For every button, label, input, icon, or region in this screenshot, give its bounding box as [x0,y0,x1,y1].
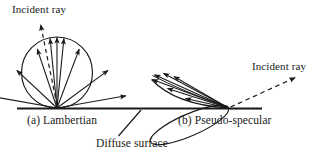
pseudo-specular-incident-ray [231,78,296,108]
lambertian-reflected-rays [0,38,126,109]
diffuse-surface-leader-line [119,110,142,136]
lambertian-lobe [0,25,126,109]
figure-drawing [0,0,335,157]
incident-ray-label-right: Incident ray [252,61,306,72]
incident-ray-label-left: Incident ray [12,4,66,15]
caption-lambertian: (a) Lambertian [27,115,97,127]
diffuse-surface-label: Diffuse surface [96,138,168,150]
caption-pseudo-specular: (b) Pseudo-specular [178,115,272,127]
pseudo-specular-lobe [146,73,295,152]
figure-container: Incident ray Incident ray (a) Lambertian… [0,0,335,157]
pseudo-specular-reflected-rays [153,73,229,108]
